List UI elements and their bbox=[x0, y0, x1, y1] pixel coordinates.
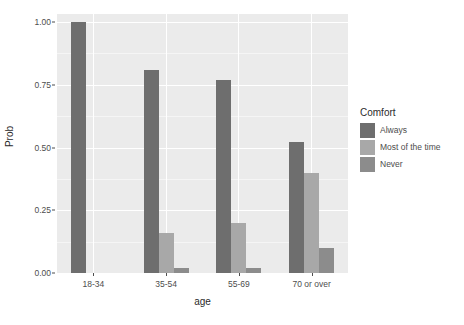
y-axis-tick-mark bbox=[52, 84, 55, 85]
bar-chart: Prob 0.000.250.500.751.00 18-3435-5455-6… bbox=[0, 0, 464, 325]
legend-swatch-icon bbox=[360, 157, 375, 172]
legend-swatch-icon bbox=[360, 123, 375, 138]
gridline-major-horizontal bbox=[57, 22, 348, 23]
x-axis-tick-label: 70 or over bbox=[292, 280, 330, 289]
x-axis-tick-mark bbox=[166, 273, 167, 276]
bar bbox=[304, 173, 319, 273]
legend: Comfort AlwaysMost of the timeNever bbox=[360, 108, 464, 173]
x-axis-title: age bbox=[57, 296, 348, 307]
y-axis-tick-mark bbox=[52, 147, 55, 148]
gridline-major-horizontal bbox=[57, 85, 348, 86]
x-axis-tick-label: 18-34 bbox=[83, 280, 105, 289]
legend-items: AlwaysMost of the timeNever bbox=[360, 122, 464, 173]
legend-item-label: Never bbox=[380, 160, 403, 169]
y-axis-tick-label: 0.75 bbox=[21, 81, 51, 90]
y-axis-tick-labels: 0.000.250.500.751.00 bbox=[20, 0, 51, 325]
gridline-major-vertical bbox=[93, 14, 94, 273]
bar bbox=[289, 142, 304, 273]
y-axis-tick-label: 0.50 bbox=[21, 143, 51, 152]
y-axis-tick-mark bbox=[52, 210, 55, 211]
gridline-minor-horizontal bbox=[57, 53, 348, 54]
y-axis-tick-label: 1.00 bbox=[21, 18, 51, 27]
bar bbox=[71, 22, 86, 273]
legend-item: Most of the time bbox=[360, 139, 464, 156]
y-axis-tick-label: 0.25 bbox=[21, 206, 51, 215]
y-axis-tick-mark bbox=[52, 22, 55, 23]
gridline-minor-horizontal bbox=[57, 116, 348, 117]
plot-panel bbox=[57, 14, 348, 273]
bar bbox=[216, 80, 231, 273]
bar bbox=[144, 70, 159, 273]
y-axis-title: Prob bbox=[2, 0, 18, 273]
gridline-major-horizontal bbox=[57, 148, 348, 149]
x-axis-tick-label: 35-54 bbox=[155, 280, 177, 289]
y-axis-title-label: Prob bbox=[5, 126, 16, 147]
bar bbox=[174, 268, 189, 273]
legend-item-label: Most of the time bbox=[380, 143, 440, 152]
bar bbox=[231, 223, 246, 273]
bar bbox=[159, 233, 174, 273]
x-axis-tick-mark bbox=[312, 273, 313, 276]
legend-item: Always bbox=[360, 122, 464, 139]
y-axis-tick-mark bbox=[52, 273, 55, 274]
legend-item: Never bbox=[360, 156, 464, 173]
y-axis-tick-label: 0.00 bbox=[21, 269, 51, 278]
bar bbox=[246, 268, 261, 273]
x-axis-tick-mark bbox=[239, 273, 240, 276]
legend-swatch-icon bbox=[360, 140, 375, 155]
legend-title: Comfort bbox=[360, 108, 464, 118]
x-axis-tick-mark bbox=[93, 273, 94, 276]
legend-item-label: Always bbox=[380, 126, 407, 135]
x-axis-tick-label: 55-69 bbox=[228, 280, 250, 289]
bar bbox=[319, 248, 334, 273]
